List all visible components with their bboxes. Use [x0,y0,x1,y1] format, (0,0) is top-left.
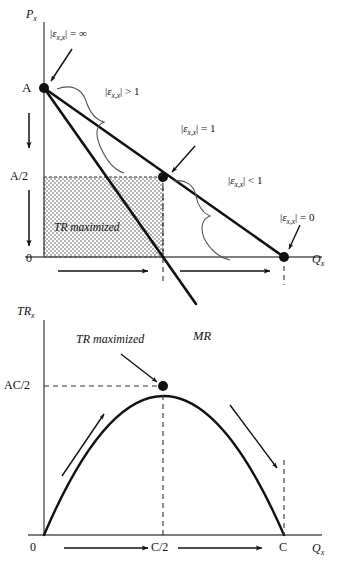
tr-rising-arrow [62,414,104,476]
upper-x-axis-label: Qx [312,253,324,268]
elasticity-equal-one-label: |εx,x| = 1 [181,123,216,137]
tr-maximized-shaded-rect [44,177,163,257]
c-half-tick-label: C/2 [151,541,168,553]
point-a-marker [39,83,49,93]
elasticity-infinite-label: |εx,x| = ∞ [50,28,87,42]
tr-falling-arrow [230,405,277,468]
c-tick-label: C [279,541,287,553]
elasticity-less-than-one-label: |εx,x| < 1 [228,175,263,189]
marginal-revenue-label: MR [193,330,211,343]
unit-elasticity-pointer [172,146,195,172]
a-half-tick-label: A/2 [10,170,28,182]
tr-maximized-note: TR maximized [76,333,144,345]
tr-peak-marker [158,381,168,391]
lower-x-axis-label: Qx [312,542,324,557]
figure-canvas [0,0,345,563]
tr-maximized-rect-label: TR maximized [54,222,119,234]
total-revenue-curve [44,396,284,535]
economics-figure: Px Qx 0 A A/2 |εx,x| = ∞ |εx,x| > 1 |εx,… [0,0,345,563]
upper-origin-label: 0 [26,252,32,264]
zero-elasticity-pointer [289,225,300,249]
elasticity-zero-label: |εx,x| = 0 [280,212,315,226]
marginal-revenue-line-lower [163,257,196,304]
lower-origin-label: 0 [30,541,36,553]
point-a-label: A [22,81,31,94]
infinite-elasticity-pointer [51,49,72,81]
zero-elasticity-marker [279,252,289,262]
upper-y-axis-label: Px [26,8,37,23]
inelastic-region-brace [174,181,230,260]
lower-y-axis-label: TRx [17,305,35,320]
elasticity-greater-than-one-label: |εx,x| > 1 [105,86,140,100]
tr-maximized-pointer [121,354,157,382]
ac-half-tick-label: AC/2 [4,379,30,391]
unit-elastic-midpoint-marker [158,172,168,182]
